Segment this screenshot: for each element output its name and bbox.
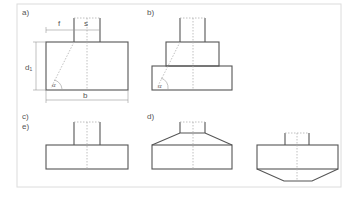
panel-e (257, 133, 338, 181)
sloped-base (152, 145, 232, 169)
bottom-step (152, 66, 232, 90)
panel-d: d) (147, 112, 232, 169)
dim-f-label: f (58, 19, 61, 28)
panel-b: b) α (147, 8, 232, 90)
sloped-top (152, 133, 232, 145)
angle-alpha-label-b: α (158, 82, 162, 90)
panel-c: c) e) (22, 112, 128, 169)
diagram-frame (17, 4, 341, 187)
dim-d1-label: d₁ (25, 63, 32, 72)
panel-c-label: c) (22, 112, 29, 121)
dim-b-label: b (83, 91, 88, 100)
dim-s-label: s (84, 19, 88, 28)
tapered-base (257, 145, 338, 169)
panel-d-label: d) (147, 112, 154, 121)
angle-alpha-label: α (52, 81, 56, 89)
panel-b-label: b) (147, 8, 154, 17)
foundation-diagram: a) f s d₁ b α b) (0, 0, 352, 198)
panel-e-label: e) (22, 122, 29, 131)
tapered-bottom (257, 169, 338, 181)
panel-a: a) f s d₁ b α (22, 8, 128, 103)
panel-a-label: a) (22, 8, 29, 17)
